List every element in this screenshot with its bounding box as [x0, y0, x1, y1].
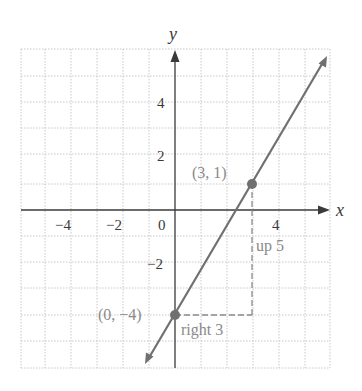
tick-y-neg2: −2	[147, 256, 163, 272]
y-axis-arrow-icon	[171, 50, 180, 62]
point-label-0-neg4: (0, −4)	[98, 306, 142, 324]
tick-y-2: 2	[157, 148, 165, 164]
tick-x-4: 4	[272, 217, 280, 233]
run-label: right 3	[181, 321, 223, 339]
tick-x-neg4: −4	[55, 217, 71, 233]
tick-origin: 0	[158, 217, 166, 233]
y-axis-label: y	[167, 24, 177, 44]
point-label-3-1: (3, 1)	[192, 164, 227, 182]
point-3-1	[247, 179, 257, 189]
x-axis-label: x	[335, 200, 344, 220]
tick-y-4: 4	[157, 95, 165, 111]
point-0-neg4	[170, 310, 180, 320]
x-axis-arrow-icon	[318, 206, 330, 215]
coordinate-plane: x y −4 −2 0 4 4 2 −2 (3, 1) (0, −4) up 5…	[0, 0, 362, 391]
rise-label: up 5	[256, 237, 284, 255]
tick-x-neg2: −2	[106, 217, 122, 233]
